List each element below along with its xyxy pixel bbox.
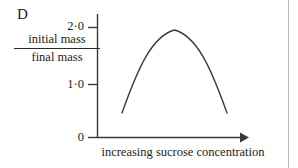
x-axis-arrow-icon: [240, 133, 249, 143]
plot-area: [0, 0, 298, 168]
x-axis-label: increasing sucrose concentration: [88, 144, 278, 160]
data-curve: [122, 30, 227, 113]
figure-panel-d: D initial mass final mass 2·0 1·0 0 incr…: [0, 0, 298, 168]
